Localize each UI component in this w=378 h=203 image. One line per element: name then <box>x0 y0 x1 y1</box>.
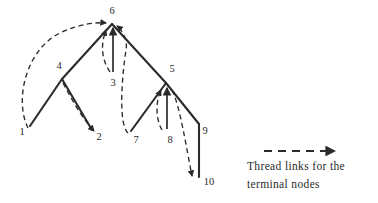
node-label-4: 4 <box>56 60 62 71</box>
legend-dashed-arrow-icon <box>262 143 342 159</box>
edge-4-1 <box>30 79 62 126</box>
tree-diagram: 1 2 3 4 5 6 7 8 9 10 <box>0 0 378 203</box>
edge-6-4 <box>62 24 112 79</box>
node-label-10: 10 <box>204 176 215 187</box>
solid-edges-group <box>30 24 199 177</box>
node-label-3: 3 <box>110 77 115 88</box>
legend-caption-line-2: terminal nodes <box>247 178 320 190</box>
thread-link-3-to-4 <box>103 30 110 72</box>
node-label-2: 2 <box>96 131 101 142</box>
solid-thread-arrows-group <box>113 28 167 129</box>
node-label-5: 5 <box>169 63 174 74</box>
edge-6-5 <box>112 24 166 83</box>
node-label-8: 8 <box>167 134 172 145</box>
node-label-9: 9 <box>202 125 207 136</box>
edge-5-9 <box>166 83 199 124</box>
node-label-1: 1 <box>19 126 24 137</box>
edge-5-7 <box>131 83 166 131</box>
node-label-7: 7 <box>133 134 138 145</box>
threaded-tree-figure: 1 2 3 4 5 6 7 8 9 10 Thread links for th… <box>0 0 378 203</box>
node-labels-group: 1 2 3 4 5 6 7 8 9 10 <box>19 5 214 187</box>
thread-link-7-to-6 <box>117 26 128 133</box>
legend-caption-line-1: Thread links for the <box>247 160 345 172</box>
node-label-6: 6 <box>109 5 114 16</box>
